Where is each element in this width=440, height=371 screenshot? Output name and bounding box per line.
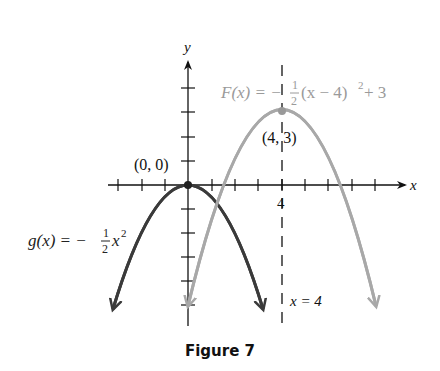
svg-text:2: 2 [358,79,364,91]
graph-canvas: y x 4 (0, 0) (4, 3) x = 4 F(x) = − 1 2 (… [0,0,440,371]
vertex-F-label: (4, 3) [262,129,297,147]
tick-label-4: 4 [277,195,285,211]
symmetry-label: x = 4 [289,293,322,309]
svg-text:2: 2 [121,227,127,239]
svg-text:x: x [111,231,120,250]
g-equation-label: g(x) = − 1 2 x 2 [28,226,127,256]
svg-text:2: 2 [102,242,108,256]
svg-text:(x − 4): (x − 4) [301,83,347,102]
figure-caption: Figure 7 [0,342,440,360]
F-equation-label: F(x) = − 1 2 (x − 4) 2 + 3 [220,78,386,108]
x-axis [108,179,405,191]
svg-text:+ 3: + 3 [364,83,386,102]
svg-text:1: 1 [292,78,298,92]
svg-text:1: 1 [103,226,109,240]
vertex-g-label: (0, 0) [134,156,169,174]
x-axis-label: x [409,177,417,193]
svg-text:g(x) = −: g(x) = − [28,231,87,250]
y-axis-label: y [182,39,191,55]
svg-text:F(x) = −: F(x) = − [220,83,282,102]
vertex-g-point [184,181,192,189]
vertex-F-point [278,107,286,115]
svg-text:2: 2 [291,94,297,108]
